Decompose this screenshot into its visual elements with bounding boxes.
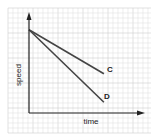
series-line-c (29, 30, 104, 74)
x-axis-arrow-icon (137, 111, 145, 116)
series-label-c: C (107, 65, 113, 74)
y-axis-label: speed (14, 64, 23, 86)
speed-time-graph: time speed C D (0, 0, 155, 137)
series-lines (29, 30, 104, 103)
series-label-d: D (104, 92, 110, 101)
series-line-d (29, 30, 104, 103)
x-axis-label: time (83, 117, 99, 126)
